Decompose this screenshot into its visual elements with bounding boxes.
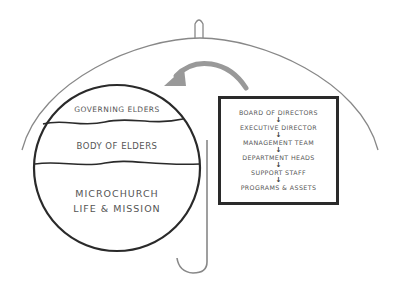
- down-arrow-icon: ↓: [276, 147, 282, 154]
- microchurch-label-line2: LIFE & MISSION: [57, 201, 177, 216]
- down-arrow-icon: ↓: [276, 117, 282, 124]
- body-of-elders-label: BODY OF ELDERS: [62, 141, 172, 151]
- governing-elders-label: GOVERNING ELDERS: [67, 105, 167, 114]
- curved-arrow: [176, 64, 246, 89]
- microchurch-label-line1: MICROCHURCH: [57, 186, 177, 201]
- down-arrow-icon: ↓: [276, 132, 282, 139]
- down-arrow-icon: ↓: [276, 162, 282, 169]
- arrow-head: [164, 68, 186, 86]
- hierarchy-box: BOARD OF DIRECTORS ↓ EXECUTIVE DIRECTOR …: [218, 96, 339, 205]
- umbrella-tip: [195, 20, 203, 38]
- wavy-divider-2: [35, 161, 200, 164]
- down-arrow-icon: ↓: [276, 177, 282, 184]
- umbrella-handle: [177, 140, 207, 273]
- wavy-divider-1: [43, 119, 183, 124]
- hierarchy-item-programs: PROGRAMS & ASSETS: [241, 184, 317, 192]
